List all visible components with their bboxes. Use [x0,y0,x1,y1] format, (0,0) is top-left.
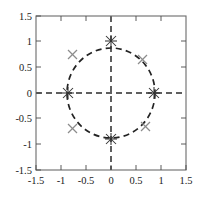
figure-container: 1.5 1 0.5 0 -0.5 -1 -1.5 -1.5 -1 -0.5 0 … [0,0,202,197]
y-tick-label: -0.5 [15,113,32,124]
y-tick-label: 1 [27,36,32,47]
star-marker [62,87,74,99]
y-tick-label: -1 [23,139,32,150]
x-tick-label: -0.5 [78,175,95,186]
y-tick-label: 1.5 [19,11,32,22]
star-marker [148,87,160,99]
x-tick-label: 0.5 [129,175,142,186]
star-marker [105,133,117,145]
x-tick-label: 0 [108,175,113,186]
x-tick-label: 1 [158,175,163,186]
star-marker [105,35,117,47]
y-tick-label: 0.5 [19,62,32,73]
x-tick-label: 1.5 [179,175,192,186]
x-tick-label: -1.5 [28,175,45,186]
y-tick-label: 0 [27,88,32,99]
unit-circle-plot: 1.5 1 0.5 0 -0.5 -1 -1.5 -1.5 -1 -0.5 0 … [0,0,202,197]
x-tick-label: -1 [57,175,66,186]
